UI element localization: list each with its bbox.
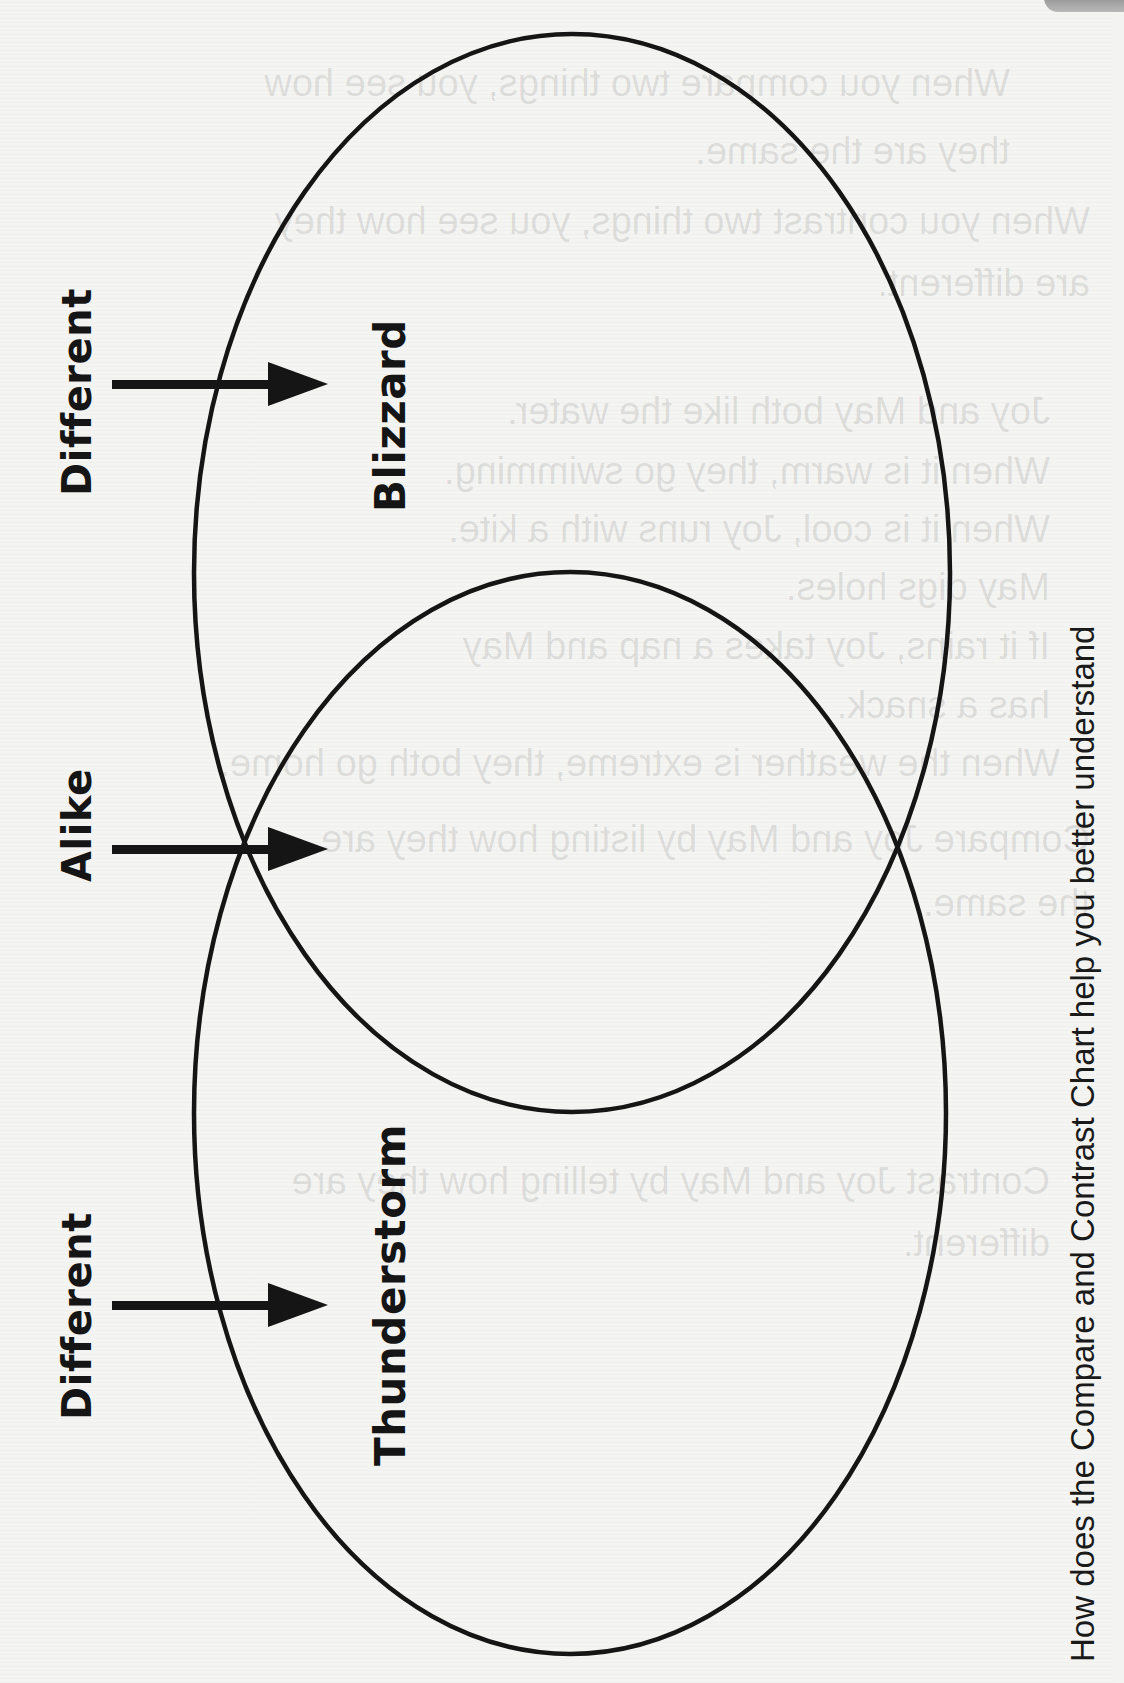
- arrow-right-icon-thunderstorm: [112, 1283, 328, 1327]
- label-alike: Alike: [54, 768, 100, 882]
- label-different-top: Different: [54, 288, 100, 496]
- question-text: How does the Compare and Contrast Chart …: [1064, 626, 1102, 1662]
- label-different-bottom: Different: [54, 1212, 100, 1420]
- arrow-right-icon-alike: [112, 827, 328, 871]
- label-thunderstorm: Thunderstorm: [366, 1124, 415, 1466]
- label-blizzard: Blizzard: [366, 319, 415, 512]
